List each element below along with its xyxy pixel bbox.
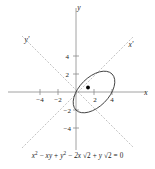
caption-op-2: + (54, 152, 58, 160)
x-axis-label: x (143, 88, 148, 97)
caption-op-1: − (40, 152, 44, 160)
y-tick-label-neg2: −2 (64, 107, 72, 115)
x-tick-label-neg4: −4 (36, 96, 44, 104)
caption-term-xy: xy (46, 152, 53, 160)
y-tick-label-pos4: 4 (66, 53, 70, 61)
y-tick-label-neg4: −4 (64, 125, 72, 133)
caption-term-y2: y (99, 152, 102, 160)
y-prime-axis-label: y' (24, 35, 30, 44)
equation-caption: x2 − xy + y2 − 2x √2 + y √2 = 0 (0, 150, 155, 160)
center-point-marker (86, 86, 90, 90)
y-tick-label-pos2: 2 (66, 71, 70, 79)
caption-exp-1: 2 (35, 150, 38, 156)
caption-op-4: + (93, 152, 97, 160)
conic-section-figure: −4 −2 2 4 4 2 −2 −4 x y x' y' x2 − xy + … (0, 0, 155, 169)
x-tick-label-pos4: 4 (110, 96, 114, 104)
caption-term-2x: 2x (74, 152, 81, 160)
caption-radical-1: √2 (83, 152, 91, 160)
x-tick-label-neg2: −2 (54, 96, 62, 104)
caption-exp-3: 2 (63, 150, 66, 156)
caption-radical-2: √2 (104, 152, 112, 160)
x-tick-label-pos2: 2 (93, 96, 97, 104)
y-axis-label: y (76, 3, 81, 12)
x-prime-axis-label: x' (128, 40, 134, 49)
caption-op-3: − (68, 152, 72, 160)
caption-tail: = 0 (114, 152, 124, 160)
coordinate-plot: −4 −2 2 4 4 2 −2 −4 x y x' y' (0, 0, 155, 152)
